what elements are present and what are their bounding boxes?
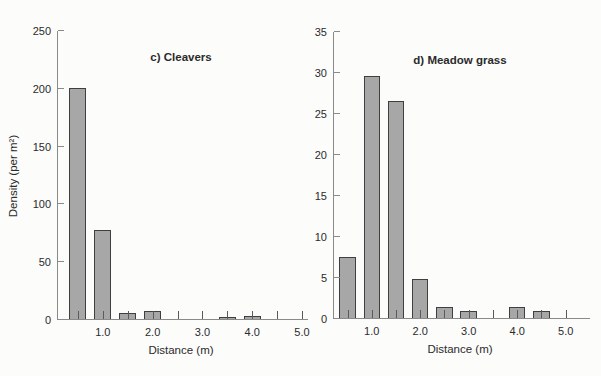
x-tick [517, 310, 518, 318]
y-tick-label: 20 [315, 150, 327, 161]
x-tick [202, 311, 203, 319]
y-tick-label: 25 [315, 109, 327, 120]
y-tick [334, 113, 340, 114]
y-tick-label: 150 [33, 141, 51, 152]
y-tick [334, 195, 340, 196]
x-axis-label-meadow-grass: Distance (m) [427, 343, 492, 355]
y-tick-label: 0 [45, 315, 51, 326]
bar-1.0m [94, 230, 111, 319]
x-tick [566, 310, 567, 318]
x-tick [103, 311, 104, 319]
y-tick-label: 50 [39, 257, 51, 268]
x-tick [153, 311, 154, 319]
x-tick-label: 4.0 [510, 326, 525, 337]
x-tick-label: 4.0 [245, 327, 260, 338]
x-tick [277, 311, 278, 319]
y-tick [58, 203, 64, 204]
plot-area-cleavers: 1.02.03.04.05.0050100150200250 [57, 31, 305, 320]
y-axis [333, 32, 334, 319]
x-tick [78, 311, 79, 319]
x-tick-label: 2.0 [145, 327, 160, 338]
bar-chart-figure: c) Cleavers Density (per m²) Distance (m… [0, 0, 601, 376]
x-tick-label: 2.0 [413, 326, 428, 337]
y-tick [58, 261, 64, 262]
x-tick [348, 310, 349, 318]
y-tick [334, 236, 340, 237]
y-tick-label: 5 [321, 273, 327, 284]
y-tick-label: 0 [321, 314, 327, 325]
bar-0.5m [339, 257, 355, 319]
chart-cleavers: c) Cleavers Density (per m²) Distance (m… [57, 31, 305, 320]
chart-title-cleavers: c) Cleavers [150, 51, 211, 63]
y-tick-label: 200 [33, 83, 51, 94]
bar-1.5m [388, 101, 404, 318]
x-axis-label-cleavers: Distance (m) [148, 344, 213, 356]
x-tick [227, 311, 228, 319]
y-tick [58, 88, 64, 89]
bar-1.0m [364, 76, 380, 318]
x-tick [372, 310, 373, 318]
chart-meadow-grass: d) Meadow grass Distance (m) 1.02.03.04.… [333, 32, 587, 319]
x-tick-label: 3.0 [195, 327, 210, 338]
y-axis [57, 31, 58, 320]
x-tick [493, 310, 494, 318]
x-tick [420, 310, 421, 318]
y-axis-label-box: Density (per m²) [5, 31, 21, 320]
x-tick [396, 310, 397, 318]
y-tick-label: 250 [33, 26, 51, 37]
chart-title-meadow-grass: d) Meadow grass [413, 54, 506, 66]
x-tick [302, 311, 303, 319]
x-axis [57, 319, 308, 320]
x-tick [252, 311, 253, 319]
y-tick-label: 15 [315, 191, 327, 202]
y-tick [334, 154, 340, 155]
y-tick-label: 30 [315, 68, 327, 79]
x-tick-label: 5.0 [294, 327, 309, 338]
x-tick [469, 310, 470, 318]
x-tick-label: 1.0 [364, 326, 379, 337]
plot-area-meadow-grass: 1.02.03.04.05.005101520253035 [333, 32, 587, 319]
y-tick-label: 10 [315, 232, 327, 243]
x-tick [178, 311, 179, 319]
x-tick [541, 310, 542, 318]
x-tick-label: 1.0 [95, 327, 110, 338]
y-tick [334, 72, 340, 73]
y-axis-label: Density (per m²) [7, 134, 19, 216]
y-tick [334, 277, 340, 278]
x-tick [444, 310, 445, 318]
x-tick [128, 311, 129, 319]
bar-0.5m [69, 88, 86, 319]
y-tick [334, 31, 340, 32]
x-tick-label: 5.0 [558, 326, 573, 337]
y-tick-label: 35 [315, 27, 327, 38]
x-axis [333, 318, 590, 319]
x-tick-label: 3.0 [461, 326, 476, 337]
y-tick [58, 30, 64, 31]
y-tick-label: 100 [33, 199, 51, 210]
y-tick [58, 146, 64, 147]
